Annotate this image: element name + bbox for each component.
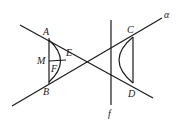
label-f-point: F [50,63,58,74]
hyperbola-right-branch [119,37,133,83]
label-d: D [127,88,136,99]
segment-m-e [49,60,66,61]
label-e: E [65,47,72,58]
label-c: C [127,24,134,35]
label-b: B [43,86,49,97]
line-b-c [12,18,162,106]
label-alpha: α [164,9,170,20]
label-f-line: f [108,108,112,119]
label-m: M [36,55,46,66]
label-a: A [42,26,50,37]
hyperbola-diagram: A M F E B C D f α [0,0,180,125]
